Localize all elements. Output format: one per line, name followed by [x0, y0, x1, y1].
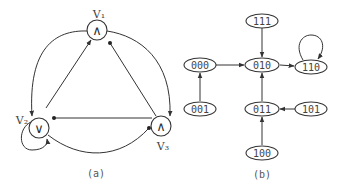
transition-010-110: [280, 65, 294, 66]
inhibition-dot-v2-v3: [147, 126, 151, 130]
edge-v2-v3: [48, 128, 149, 153]
caption-a: (a): [87, 168, 105, 179]
inhibition-dot-v3-v2: [52, 116, 56, 120]
state-111: 111: [246, 14, 278, 28]
state-010: 010: [245, 58, 279, 72]
state-011: 011: [245, 102, 279, 116]
node-label: V₃: [156, 140, 169, 153]
caption-b: (b): [253, 169, 271, 180]
edge-v2-v1: [46, 40, 91, 108]
state-label: 110: [302, 62, 320, 73]
edge-v1-v3: [107, 31, 170, 116]
state-label: 011: [253, 104, 271, 115]
state-000: 000: [184, 58, 216, 72]
state-label: 100: [253, 148, 271, 159]
diagram-canvas: ∧ V₁ ∨ V₂ ∧ V₃ (a) 111 0: [0, 0, 349, 192]
gate-and-icon: ∧: [92, 23, 102, 38]
state-label: 010: [253, 60, 271, 71]
figure-b: 111 000 010 110 001 011 101 100: [184, 14, 327, 180]
gate-and-icon: ∧: [156, 119, 166, 134]
node-v1: ∧ V₁: [87, 8, 107, 41]
node-label: V₂: [15, 114, 28, 127]
state-label: 001: [191, 104, 209, 115]
state-label: 000: [191, 60, 209, 71]
state-101: 101: [295, 102, 327, 116]
node-v2: ∨ V₂: [15, 114, 49, 139]
node-v3: ∧ V₃: [151, 116, 171, 153]
gate-or-icon: ∨: [34, 121, 44, 136]
transition-110-self: [299, 35, 323, 60]
figure-a: ∧ V₁ ∨ V₂ ∧ V₃ (a): [15, 8, 171, 179]
state-110: 110: [295, 60, 327, 74]
state-label: 101: [302, 104, 320, 115]
node-label: V₁: [92, 8, 105, 21]
edge-v3-v1: [110, 43, 156, 116]
state-100: 100: [246, 146, 278, 160]
inhibition-dot-v3-v1: [108, 41, 112, 45]
state-001: 001: [184, 102, 216, 116]
state-label: 111: [253, 16, 271, 27]
edge-v1-v2: [32, 31, 87, 116]
